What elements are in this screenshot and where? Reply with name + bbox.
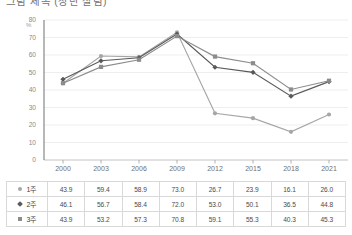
table-value-cell: 23.9 [234, 182, 271, 197]
table-row: 2주46.156.758.472.053.050.136.544.8 [7, 197, 346, 212]
data-point-marker [289, 87, 293, 91]
data-point-marker [213, 54, 217, 58]
y-axis-tick-label: 40 [14, 86, 36, 93]
square-marker [18, 217, 22, 221]
table-value-cell: 44.8 [308, 197, 345, 212]
data-table: 1주43.959.458.973.026.723.916.126.02주46.1… [6, 181, 346, 227]
x-axis-tick-label: 2018 [271, 165, 311, 172]
table-value-cell: 26.7 [197, 182, 234, 197]
x-axis-tick-label: 2006 [119, 165, 159, 172]
table-row: 1주43.959.458.973.026.723.916.126.0 [7, 182, 346, 197]
x-axis-tick-label: 2015 [233, 165, 273, 172]
data-point-marker [175, 34, 179, 38]
table-value-cell: 26.0 [308, 182, 345, 197]
y-axis-tick-label: 80 [14, 16, 36, 23]
y-axis-tick-label: 60 [14, 51, 36, 58]
table-value-cell: 36.5 [271, 197, 308, 212]
table-value-cell: 57.3 [122, 212, 159, 227]
table-value-cell: 53.0 [197, 197, 234, 212]
table-value-cell: 43.9 [48, 182, 85, 197]
table-value-cell: 45.3 [308, 212, 345, 227]
y-axis-tick-label: 10 [14, 139, 36, 146]
series-name-label: 1주 [27, 184, 37, 194]
data-point-marker [251, 116, 255, 120]
y-axis-tick-label: 30 [14, 104, 36, 111]
table-row-label-cell: 3주 [7, 212, 48, 227]
data-point-marker [327, 112, 331, 116]
x-axis-tick-label: 2000 [43, 165, 83, 172]
data-point-marker [99, 65, 103, 69]
table-row-label-cell: 1주 [7, 182, 48, 197]
data-point-marker [98, 58, 103, 63]
table-value-cell: 56.7 [85, 197, 122, 212]
x-axis-tick-label: 2012 [195, 165, 235, 172]
data-point-marker [137, 58, 141, 62]
y-axis-tick-label: 0 [14, 156, 36, 163]
diamond-marker [17, 201, 23, 207]
table-value-cell: 59.4 [85, 182, 122, 197]
data-point-marker [213, 111, 217, 115]
y-axis-tick-label: 20 [14, 121, 36, 128]
x-axis-tick-label: 2021 [309, 165, 349, 172]
table-row: 3주43.953.257.370.859.155.340.345.3 [7, 212, 346, 227]
series-line-3주 [63, 36, 329, 89]
series-name-label: 2주 [27, 199, 37, 209]
data-point-marker [99, 54, 103, 58]
table-value-cell: 16.1 [271, 182, 308, 197]
table-value-cell: 70.8 [159, 212, 196, 227]
table-value-cell: 58.9 [122, 182, 159, 197]
table-row-label-cell: 2주 [7, 197, 48, 212]
chart-plot-area: % 80706050403020100 20002003200620092012… [0, 8, 352, 180]
data-point-marker [250, 70, 255, 75]
table-value-cell: 43.9 [48, 212, 85, 227]
line-chart-svg [0, 8, 352, 180]
data-point-marker [289, 130, 293, 134]
y-axis-tick-label: 70 [14, 34, 36, 41]
table-value-cell: 46.1 [48, 197, 85, 212]
table-value-cell: 59.1 [197, 212, 234, 227]
data-point-marker [288, 94, 293, 99]
table-value-cell: 40.3 [271, 212, 308, 227]
chart-title: 그림 제목 (상단 잘림) [6, 0, 107, 8]
table-value-cell: 53.2 [85, 212, 122, 227]
y-axis-tick-label: 50 [14, 69, 36, 76]
x-axis-tick-label: 2003 [81, 165, 121, 172]
data-point-marker [251, 61, 255, 65]
data-point-marker [61, 81, 65, 85]
series-line-1주 [63, 32, 329, 132]
table-value-cell: 72.0 [159, 197, 196, 212]
data-point-marker [327, 79, 331, 83]
table-value-cell: 50.1 [234, 197, 271, 212]
x-axis-tick-label: 2009 [157, 165, 197, 172]
table-value-cell: 58.4 [122, 197, 159, 212]
table-value-cell: 55.3 [234, 212, 271, 227]
series-name-label: 3주 [27, 214, 37, 224]
table-value-cell: 73.0 [159, 182, 196, 197]
circle-marker [18, 187, 22, 191]
